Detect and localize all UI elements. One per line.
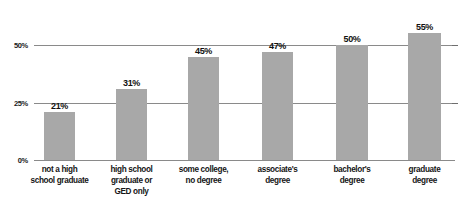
bar-rect[interactable] bbox=[336, 45, 368, 160]
x-axis-label-graduate-degree: graduate degree bbox=[382, 164, 467, 186]
bar-value-label: 47% bbox=[269, 41, 286, 51]
bar-value-label: 50% bbox=[344, 34, 361, 44]
bar-group-not-a-high-school-graduate: 21% bbox=[44, 112, 75, 160]
bar-rect[interactable] bbox=[44, 112, 75, 160]
bar-group-associates-degree: 47% bbox=[262, 52, 293, 160]
bar-rect[interactable] bbox=[188, 57, 219, 160]
bar-value-label: 21% bbox=[51, 101, 68, 111]
bar-rect[interactable] bbox=[116, 89, 147, 160]
bar-rect[interactable] bbox=[262, 52, 293, 160]
bar-value-label: 31% bbox=[123, 78, 140, 88]
bar-chart: 50% 25% 0% 21% 31% 45% 47% 50% 5 bbox=[0, 0, 468, 217]
bar-group-high-school-graduate-or-ged-only: 31% bbox=[116, 89, 147, 160]
bar-group-bachelors-degree: 50% bbox=[336, 45, 368, 160]
bar-value-label: 55% bbox=[416, 22, 433, 32]
x-axis-label-associates-degree: associate's degree bbox=[235, 164, 320, 186]
bar-group-graduate-degree: 55% bbox=[408, 33, 441, 160]
bar-value-label: 45% bbox=[195, 46, 212, 56]
bar-rect[interactable] bbox=[408, 33, 441, 160]
bar-group-some-college-no-degree: 45% bbox=[188, 57, 219, 160]
